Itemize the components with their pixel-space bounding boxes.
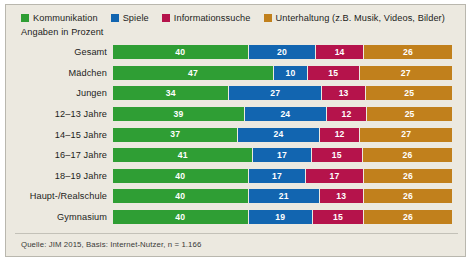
bar-segment-value: 26 <box>403 192 413 201</box>
bar-row-label: Jungen <box>6 88 113 98</box>
square-swatch-icon <box>162 14 170 22</box>
bar-segment-value: 21 <box>279 192 289 201</box>
bar-row-label: Mädchen <box>6 68 113 78</box>
chart-container: Kommunikation Spiele Informationssuche U… <box>5 4 466 257</box>
bar-segment-value: 40 <box>175 213 185 222</box>
bar-segment-informationssuche: 13 <box>320 189 364 203</box>
bar-segment-value: 15 <box>333 213 343 222</box>
bar-segment-unterhaltung: 26 <box>364 189 452 203</box>
bar-row-gymnasium: Gymnasium40191526 <box>6 207 465 228</box>
bar-row-label: 16–17 Jahre <box>6 150 113 160</box>
bar-segment-value: 25 <box>405 110 415 119</box>
bar-track: 34271325 <box>113 86 452 100</box>
bar-segment-value: 41 <box>178 151 188 160</box>
bar-segment-value: 40 <box>175 192 185 201</box>
bar-segment-value: 19 <box>275 213 285 222</box>
bar-row-label: Haupt-/Realschule <box>6 191 113 201</box>
bar-segment-spiele: 17 <box>253 148 311 162</box>
bar-track: 47101527 <box>113 66 452 80</box>
bar-segment-spiele: 20 <box>249 45 317 59</box>
bar-segment-value: 13 <box>336 192 346 201</box>
bar-row-12-13-jahre: 12–13 Jahre39241225 <box>6 104 465 125</box>
legend-item-spiele: Spiele <box>111 13 149 23</box>
bar-segment-value: 17 <box>330 172 340 181</box>
bar-segment-unterhaltung: 26 <box>363 148 452 162</box>
bar-segment-value: 12 <box>335 130 345 139</box>
bar-segment-informationssuche: 15 <box>312 148 363 162</box>
bar-segment-kommunikation: 34 <box>113 86 229 100</box>
bar-segment-spiele: 17 <box>249 169 307 183</box>
bar-segment-value: 27 <box>401 69 411 78</box>
bar-segment-value: 12 <box>341 110 351 119</box>
bar-segment-kommunikation: 37 <box>113 128 238 142</box>
bar-segment-informationssuche: 15 <box>308 66 359 80</box>
bar-segment-value: 26 <box>403 48 413 57</box>
bar-segment-value: 37 <box>170 130 180 139</box>
legend-label: Informationssuche <box>174 13 251 23</box>
bar-row-16-17-jahre: 16–17 Jahre41171526 <box>6 145 465 166</box>
bar-segment-unterhaltung: 25 <box>367 107 452 121</box>
bar-segment-value: 27 <box>270 89 280 98</box>
bar-segment-kommunikation: 41 <box>113 148 253 162</box>
bar-row-maedchen: Mädchen47101527 <box>6 63 465 84</box>
bar-track: 40201426 <box>113 45 452 59</box>
legend-label: Spiele <box>123 13 149 23</box>
legend-subtitle: Angaben in Prozent <box>21 27 461 37</box>
bar-segment-informationssuche: 17 <box>306 169 364 183</box>
bar-segment-unterhaltung: 26 <box>364 45 452 59</box>
bar-segment-spiele: 27 <box>229 86 321 100</box>
bar-segment-informationssuche: 15 <box>313 210 364 224</box>
bar-track: 40171726 <box>113 169 452 183</box>
bar-segment-unterhaltung: 26 <box>364 210 452 224</box>
stacked-bar-plot: Gesamt40201426Mädchen47101527Jungen34271… <box>6 42 465 228</box>
legend-item-informationssuche: Informationssuche <box>162 13 251 23</box>
bar-segment-value: 27 <box>401 130 411 139</box>
bar-segment-spiele: 24 <box>238 128 319 142</box>
chart-legend: Kommunikation Spiele Informationssuche U… <box>21 11 461 41</box>
bar-segment-value: 13 <box>339 89 349 98</box>
bar-segment-value: 24 <box>274 130 284 139</box>
bar-row-label: Gymnasium <box>6 212 113 222</box>
bar-segment-value: 47 <box>188 69 198 78</box>
legend-label: Kommunikation <box>33 13 98 23</box>
bar-track: 40211326 <box>113 189 452 203</box>
legend-item-kommunikation: Kommunikation <box>21 13 98 23</box>
bar-segment-informationssuche: 12 <box>320 128 361 142</box>
bar-segment-kommunikation: 40 <box>113 189 249 203</box>
legend-row: Kommunikation Spiele Informationssuche U… <box>21 11 461 25</box>
bar-segment-value: 14 <box>335 48 345 57</box>
square-swatch-icon <box>264 14 272 22</box>
legend-item-unterhaltung: Unterhaltung (z.B. Musik, Videos, Bilder… <box>264 13 445 23</box>
bar-row-label: 18–19 Jahre <box>6 171 113 181</box>
bar-track: 37241227 <box>113 128 452 142</box>
bar-segment-informationssuche: 14 <box>316 45 363 59</box>
bar-track: 40191526 <box>113 210 452 224</box>
footer-divider <box>15 233 458 234</box>
bar-row-18-19-jahre: 18–19 Jahre40171726 <box>6 166 465 187</box>
bar-row-label: 14–15 Jahre <box>6 130 113 140</box>
square-swatch-icon <box>21 14 29 22</box>
bar-row-14-15-jahre: 14–15 Jahre37241227 <box>6 124 465 145</box>
bar-segment-value: 25 <box>404 89 414 98</box>
bar-segment-kommunikation: 40 <box>113 210 249 224</box>
bar-segment-value: 26 <box>403 213 413 222</box>
bar-row-label: Gesamt <box>6 47 113 57</box>
bar-segment-spiele: 19 <box>249 210 313 224</box>
bar-segment-unterhaltung: 27 <box>360 66 452 80</box>
bar-segment-value: 15 <box>328 69 338 78</box>
bar-segment-spiele: 10 <box>274 66 308 80</box>
bar-segment-unterhaltung: 25 <box>366 86 452 100</box>
bar-segment-kommunikation: 47 <box>113 66 274 80</box>
bar-segment-value: 26 <box>402 151 412 160</box>
bar-row-haupt-realschule: Haupt-/Realschule40211326 <box>6 186 465 207</box>
bar-row-gesamt: Gesamt40201426 <box>6 42 465 63</box>
square-swatch-icon <box>111 14 119 22</box>
bar-segment-value: 40 <box>175 172 185 181</box>
bar-segment-value: 26 <box>403 172 413 181</box>
bar-segment-kommunikation: 40 <box>113 45 249 59</box>
bar-segment-kommunikation: 39 <box>113 107 245 121</box>
bar-row-label: 12–13 Jahre <box>6 109 113 119</box>
bar-segment-spiele: 24 <box>245 107 326 121</box>
source-note: Quelle: JIM 2015, Basis: Internet-Nutzer… <box>21 240 201 249</box>
bar-segment-value: 34 <box>166 89 176 98</box>
